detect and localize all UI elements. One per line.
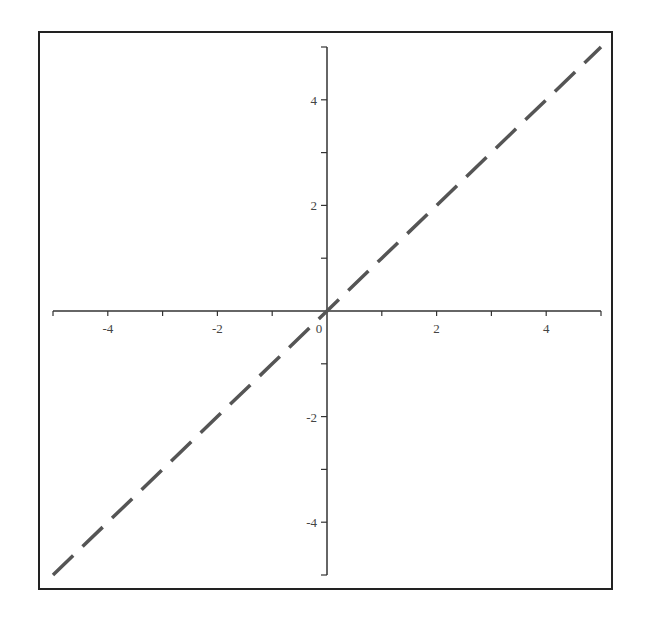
y-tick-label: 2	[311, 198, 318, 213]
y-tick-label: -2	[306, 410, 317, 425]
x-tick-label: 4	[543, 321, 550, 336]
y-tick-label: -4	[306, 515, 317, 530]
y-tick-label: 4	[311, 93, 318, 108]
x-tick-label: 2	[433, 321, 440, 336]
x-tick-label: 0	[316, 321, 323, 336]
plot-area: -4-202442-2-4	[0, 0, 651, 628]
x-tick-label: -2	[212, 321, 223, 336]
x-tick-label: -4	[102, 321, 113, 336]
